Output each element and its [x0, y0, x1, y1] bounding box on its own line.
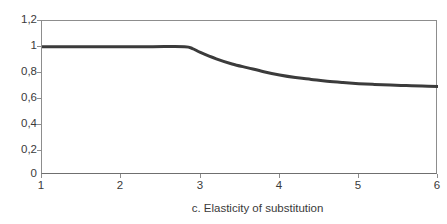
x-tick-mark	[279, 174, 280, 178]
x-tick-mark	[41, 174, 42, 178]
x-tick-label: 3	[197, 180, 203, 192]
y-tick-label: 0	[0, 168, 37, 180]
x-tick-mark	[120, 174, 121, 178]
y-tick-label: 0,8	[0, 66, 37, 78]
chart-figure: 1,2 1 0,8 0,6 0,4 0,2 0 1 2 3 4 5 6	[0, 0, 447, 224]
y-tick-label: 0,6	[0, 92, 37, 104]
y-tick-label: 1	[0, 40, 37, 52]
x-tick-label: 1	[38, 180, 44, 192]
y-tick-label: 1,2	[0, 14, 37, 26]
y-tick-label: 0,2	[0, 144, 37, 156]
x-tick-label: 5	[355, 180, 361, 192]
series-line	[42, 47, 438, 87]
chart-caption: c. Elasticity of substitution	[0, 203, 447, 215]
data-curve	[42, 21, 438, 175]
plot-area	[41, 20, 437, 174]
y-tick-label: 0,4	[0, 118, 37, 130]
x-tick-mark	[358, 174, 359, 178]
x-tick-mark	[200, 174, 201, 178]
x-tick-label: 6	[434, 180, 440, 192]
x-tick-label: 2	[117, 180, 123, 192]
x-tick-mark	[437, 174, 438, 178]
x-tick-label: 4	[276, 180, 282, 192]
